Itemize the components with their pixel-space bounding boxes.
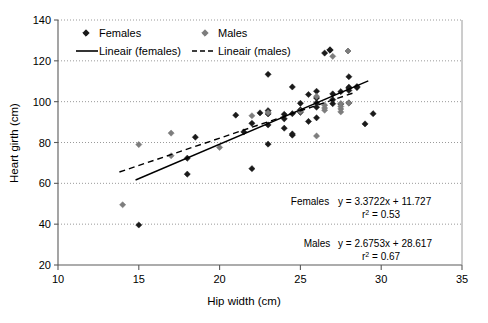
x-axis-title: Hip width (cm) — [207, 295, 281, 307]
x-tick-label: 35 — [456, 273, 468, 285]
x-tick-label: 10 — [52, 273, 64, 285]
chart-figure: 20406080100120140 101520253035 FemalesMa… — [0, 0, 488, 323]
x-tick-label: 15 — [133, 273, 145, 285]
legend-label-females: Females — [99, 27, 142, 39]
y-tick-label: 40 — [39, 218, 51, 230]
x-tick-label: 30 — [375, 273, 387, 285]
y-tick-label: 20 — [39, 259, 51, 271]
x-tick-label: 25 — [294, 273, 306, 285]
males-equation-prefix: Males — [304, 238, 331, 249]
y-tick-label: 80 — [39, 137, 51, 149]
legend-label-lineair-males: Lineair (males) — [218, 45, 291, 57]
legend-label-lineair-females: Lineair (females) — [99, 45, 181, 57]
scatter-plot: 20406080100120140 101520253035 FemalesMa… — [0, 0, 488, 323]
y-axis-title: Heart girth (cm) — [8, 103, 20, 183]
legend-label-males: Males — [218, 27, 248, 39]
y-tick-label: 100 — [33, 96, 51, 108]
x-tick-label: 20 — [213, 273, 225, 285]
y-tick-label: 120 — [33, 55, 51, 67]
y-tick-label: 140 — [33, 14, 51, 26]
females-r2-value: = 0.53 — [369, 209, 400, 220]
males-equation: y = 2.6753x + 28.617 — [338, 238, 432, 249]
females-equation-prefix: Females — [291, 196, 329, 207]
females-equation: y = 3.3722x + 11.727 — [338, 196, 432, 207]
y-tick-label: 60 — [39, 177, 51, 189]
males-r2-value: = 0.67 — [369, 251, 400, 262]
